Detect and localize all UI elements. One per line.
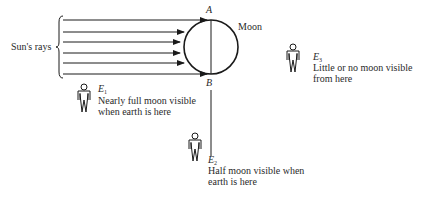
observer-e2-caption-line1: Half moon visible when — [208, 165, 304, 176]
moon-label: Moon — [238, 21, 262, 32]
observer-e2-caption-line2: earth is here — [208, 176, 257, 187]
observer-e1-caption-line2: when earth is here — [98, 106, 171, 117]
sun-rays-label: Sun's rays — [11, 41, 51, 52]
point-a-label: A — [206, 4, 212, 15]
point-b-label: B — [206, 77, 212, 88]
rays-brace — [56, 16, 63, 78]
observer-e3-icon — [287, 44, 299, 72]
sun-rays — [63, 20, 207, 74]
observer-e1-icon — [78, 84, 90, 112]
observer-e1-caption-line1: Nearly full moon visible — [98, 95, 196, 106]
observer-e3-caption-line2: from here — [313, 73, 352, 84]
observer-e3-caption-line1: Little or no moon visible — [313, 62, 412, 73]
observer-e2-icon — [189, 133, 201, 161]
